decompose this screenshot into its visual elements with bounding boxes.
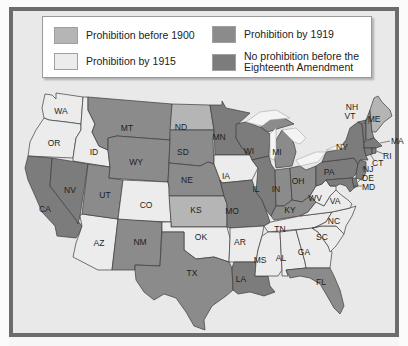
label-PA: PA: [324, 167, 335, 177]
label-WV: WV: [308, 193, 322, 203]
label-WA: WA: [54, 106, 68, 116]
legend-label-line2: Eighteenth Amendment: [244, 61, 353, 73]
label-RI: RI: [383, 151, 392, 161]
label-OH: OH: [292, 176, 305, 186]
label-SD: SD: [177, 147, 189, 157]
label-WI: WI: [244, 146, 254, 156]
label-MD: MD: [362, 182, 375, 192]
label-GA: GA: [298, 247, 311, 257]
map-legend: Prohibition before 1900 Prohibition by 1…: [42, 16, 372, 78]
label-CT: CT: [372, 158, 383, 168]
label-MO: MO: [225, 206, 239, 216]
legend-item-by-1915: Prohibition by 1915: [54, 53, 176, 70]
state-SD: [169, 130, 214, 166]
state-RI: [372, 148, 376, 154]
state-FL: [286, 268, 344, 314]
label-AZ: AZ: [94, 238, 105, 248]
legend-swatch-before-1900: [54, 27, 78, 44]
legend-item-before-1900: Prohibition before 1900: [54, 27, 195, 44]
label-OR: OR: [48, 138, 61, 148]
label-TN: TN: [274, 224, 285, 234]
label-NH: NH: [346, 102, 358, 112]
label-FL: FL: [316, 277, 326, 287]
legend-swatch-no-prohibition: [212, 54, 236, 71]
label-AL: AL: [276, 253, 287, 263]
label-CA: CA: [39, 204, 51, 214]
label-MS: MS: [254, 255, 267, 265]
legend-item-no-prohibition: No prohibition before the Eighteenth Ame…: [212, 51, 359, 73]
label-CO: CO: [140, 200, 153, 210]
legend-label-by-1919: Prohibition by 1919: [244, 29, 334, 40]
label-IA: IA: [222, 171, 230, 181]
label-NE: NE: [181, 175, 193, 185]
label-WY: WY: [129, 157, 143, 167]
label-SC: SC: [316, 232, 328, 242]
legend-swatch-by-1915: [54, 53, 78, 70]
label-MT: MT: [121, 123, 133, 133]
legend-label-before-1900: Prohibition before 1900: [86, 30, 195, 41]
label-ND: ND: [175, 122, 187, 132]
label-ME: ME: [368, 114, 381, 124]
label-MN: MN: [212, 132, 225, 142]
label-IN: IN: [272, 184, 281, 194]
legend-item-by-1919: Prohibition by 1919: [212, 26, 334, 43]
legend-swatch-by-1919: [212, 26, 236, 43]
label-UT: UT: [99, 190, 110, 200]
label-VA: VA: [330, 196, 341, 206]
label-IL: IL: [252, 184, 259, 194]
label-AR: AR: [234, 237, 246, 247]
label-NM: NM: [133, 237, 146, 247]
label-KY: KY: [284, 205, 296, 215]
label-MA: MA: [391, 136, 404, 146]
legend-label-by-1915: Prohibition by 1915: [86, 56, 176, 67]
label-OK: OK: [195, 232, 208, 242]
label-NY: NY: [336, 142, 348, 152]
label-LA: LA: [236, 274, 247, 284]
label-TX: TX: [187, 268, 198, 278]
legend-label-no-prohibition: No prohibition before the Eighteenth Ame…: [244, 51, 359, 73]
label-NC: NC: [328, 216, 340, 226]
label-KS: KS: [190, 205, 202, 215]
label-NV: NV: [64, 185, 76, 195]
label-MI: MI: [272, 147, 281, 157]
label-ID: ID: [90, 147, 99, 157]
label-VT: VT: [345, 111, 356, 121]
